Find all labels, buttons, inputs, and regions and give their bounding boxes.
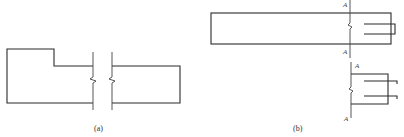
panel-b-section-bar-lower — [364, 96, 397, 99]
panel-b-section-line-bottom — [349, 62, 353, 118]
panel-b-slot — [364, 24, 395, 34]
panel-a-break-line-left — [90, 52, 96, 110]
panel-b-section-bar-upper — [364, 81, 397, 84]
panel-b-section-drawing: A A — [343, 62, 397, 123]
section-label-a-3: A — [354, 62, 360, 70]
section-label-a-2: A — [342, 48, 348, 56]
diagram-svg: (a) A A A A (b) — [0, 0, 404, 137]
panel-a-caption: (a) — [94, 124, 103, 133]
diagram-canvas: (a) A A A A (b) — [0, 0, 404, 137]
panel-a-break-line-right — [109, 52, 115, 110]
panel-a-drawing — [7, 49, 180, 110]
panel-b-section-box — [351, 74, 388, 104]
panel-a-left-outline — [7, 49, 93, 103]
panel-a-right-outline — [112, 66, 180, 103]
panel-b-caption: (b) — [293, 124, 303, 133]
panel-b-beam-outline — [211, 13, 391, 44]
panel-b-top-drawing: A A — [211, 0, 395, 58]
section-label-a-1: A — [342, 1, 348, 9]
section-label-a-4: A — [343, 115, 349, 123]
panel-b-section-line-top — [348, 0, 352, 58]
